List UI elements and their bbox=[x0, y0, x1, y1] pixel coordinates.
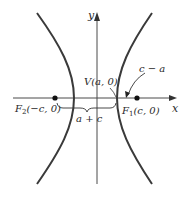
brace-a-plus-c bbox=[57, 103, 116, 112]
focus-f1-point bbox=[134, 95, 139, 100]
focus-f2-point bbox=[52, 95, 57, 100]
c-minus-a-label: c − a bbox=[139, 63, 165, 74]
y-axis-label: y bbox=[87, 9, 95, 22]
hyperbola-diagram: y x V(a, 0) c − a a + c F2(−c, 0) F1(c, … bbox=[0, 0, 188, 198]
x-axis-arrow-icon bbox=[169, 95, 177, 101]
a-plus-c-label: a + c bbox=[76, 113, 103, 124]
vertex-pointer bbox=[110, 88, 116, 97]
x-axis-label: x bbox=[172, 102, 179, 115]
vertex-label: V(a, 0) bbox=[84, 76, 118, 87]
focus-f2-coords: (−c, 0) bbox=[26, 103, 61, 114]
y-axis-arrow-icon bbox=[94, 12, 100, 21]
focus-f1-coords: (c, 0) bbox=[133, 105, 159, 116]
focus-f2-label: F2(−c, 0) bbox=[14, 103, 61, 116]
c-minus-a-arrow bbox=[128, 73, 145, 95]
x-axis bbox=[13, 95, 177, 101]
focus-f1-label: F1(c, 0) bbox=[121, 105, 160, 118]
